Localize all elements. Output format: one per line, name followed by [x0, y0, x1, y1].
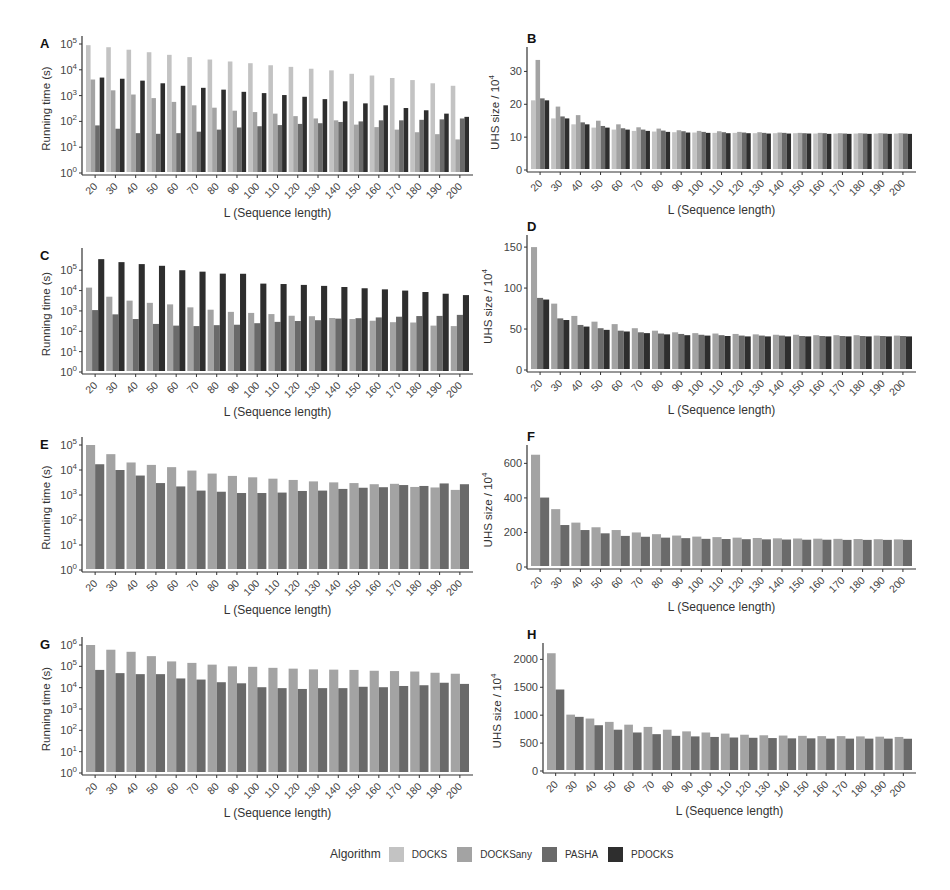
x-tick-label: 200	[443, 577, 464, 598]
bar-docksany	[430, 673, 439, 772]
x-tick-label: 120	[281, 780, 302, 801]
x-axis-label: L (Sequence length)	[676, 804, 784, 818]
bar-docksany	[167, 661, 176, 772]
bar-pasha	[379, 687, 388, 772]
y-tick-label: 101	[60, 139, 77, 153]
bar-pasha	[903, 540, 912, 566]
y-tick-label: 150	[504, 241, 522, 253]
bar-docksany	[894, 336, 900, 369]
bar-docksany	[798, 133, 803, 169]
bar-docksany	[329, 670, 338, 772]
bar-docksany	[106, 454, 115, 569]
y-tick-label: 101	[60, 344, 77, 358]
y-tick-label: 105	[60, 262, 77, 276]
legend-item-pdocks: PDOCKS	[608, 847, 673, 862]
x-tick-label: 70	[629, 377, 646, 394]
x-axis-label: L (Sequence length)	[224, 405, 332, 419]
bar-pasha	[254, 323, 260, 371]
bar-docksany	[773, 335, 779, 369]
bar-pasha	[710, 737, 719, 770]
y-tick-label: 101	[60, 537, 77, 551]
bar-pasha	[641, 537, 650, 566]
x-tick-label: 130	[302, 180, 323, 201]
bar-pdocks	[199, 272, 205, 371]
bar-docksany	[551, 304, 557, 369]
bar-pasha	[318, 491, 327, 569]
bar-pdocks	[464, 117, 469, 172]
bar-pdocks	[543, 300, 549, 369]
x-tick-label: 30	[563, 778, 580, 795]
bar-docksany	[672, 332, 678, 369]
bar-pasha	[237, 683, 246, 772]
bar-docksany	[702, 732, 711, 770]
bar-pasha	[95, 670, 104, 772]
bar-pdocks	[604, 330, 610, 369]
bar-docksany	[856, 736, 865, 770]
bar-docks	[753, 133, 758, 169]
bar-docksany	[547, 653, 556, 770]
bar-pasha	[133, 319, 139, 371]
bar-pasha	[560, 525, 569, 566]
x-tick-label: 160	[362, 180, 383, 201]
x-tick-label: 90	[669, 574, 686, 591]
bar-pasha	[173, 326, 179, 371]
bar-pdocks	[765, 336, 771, 369]
bar-pasha	[880, 336, 886, 369]
x-tick-label: 140	[766, 177, 787, 198]
bar-docksany	[349, 483, 358, 569]
x-tick-label: 110	[706, 574, 726, 594]
chart-svg: D050100150203040506070809010011012013014…	[475, 222, 950, 427]
x-tick-label: 80	[204, 379, 221, 396]
y-tick-label: 0	[516, 164, 522, 176]
bar-pasha	[739, 336, 745, 369]
bar-docksany	[813, 539, 822, 566]
bar-pasha	[768, 738, 777, 770]
bar-docksany	[268, 479, 277, 569]
x-tick-label: 70	[640, 778, 657, 795]
x-tick-label: 180	[846, 574, 867, 595]
bar-pasha	[807, 738, 816, 770]
bar-docksany	[759, 735, 768, 770]
bar-docksany	[228, 312, 234, 371]
bar-pdocks	[545, 100, 550, 169]
x-tick-label: 190	[423, 780, 444, 801]
x-tick-label: 150	[786, 177, 807, 198]
x-tick-label: 30	[103, 180, 120, 197]
chart-svg: A100101102103104105203040506070809010011…	[0, 0, 475, 222]
x-tick-label: 200	[443, 780, 464, 801]
panel-letter: G	[40, 637, 50, 652]
y-axis-label: Running time (s)	[40, 272, 52, 357]
bar-docksany	[451, 326, 457, 371]
bar-docksany	[576, 115, 581, 169]
legend-label-pdocks: PDOCKS	[631, 849, 673, 860]
x-tick-label: 180	[403, 577, 424, 598]
bar-docksany	[151, 98, 156, 172]
bar-docksany	[111, 90, 116, 172]
legend-swatch-pasha	[542, 847, 557, 862]
bar-pdocks	[281, 284, 287, 371]
x-tick-label: 180	[403, 780, 424, 801]
bar-docksany	[390, 322, 396, 371]
bar-pasha	[217, 682, 226, 772]
bar-pdocks	[886, 336, 892, 369]
bar-docksany	[268, 668, 277, 772]
bar-pasha	[641, 130, 646, 169]
bar-pdocks	[907, 134, 912, 169]
x-tick-label: 160	[810, 778, 831, 799]
bar-pdocks	[383, 105, 388, 172]
bar-pdocks	[625, 130, 630, 169]
x-tick-label: 60	[608, 377, 625, 394]
x-tick-label: 90	[225, 780, 242, 797]
x-tick-label: 180	[846, 177, 867, 198]
bar-pasha	[701, 539, 710, 566]
x-tick-label: 40	[123, 780, 140, 797]
y-axis-label: UHS size / 104	[487, 75, 501, 150]
y-axis-label: UHS size / 104	[480, 269, 494, 344]
x-tick-label: 200	[886, 377, 907, 398]
chart-svg: B010203020304050607080901001101201301401…	[475, 0, 950, 222]
x-tick-label: 110	[262, 577, 282, 597]
bar-pasha	[193, 326, 199, 371]
x-tick-label: 50	[144, 577, 161, 594]
bar-docks	[309, 69, 314, 172]
x-tick-label: 110	[706, 177, 726, 197]
